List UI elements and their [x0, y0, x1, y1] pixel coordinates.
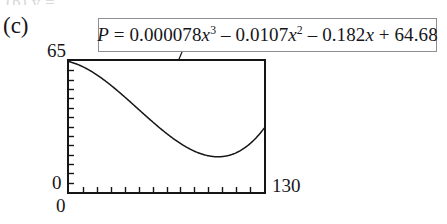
term4-sign: + [379, 24, 390, 45]
equation-callout-box: P = 0.000078x3 – 0.0107x2 – 0.182x + 64.… [98, 18, 437, 52]
term1-variable: x [202, 24, 211, 45]
term1-exponent: 3 [210, 24, 216, 37]
y-axis-max-label: 65 [47, 41, 66, 61]
term2-variable: x [288, 24, 297, 45]
equation-text: P = 0.000078x3 – 0.0107x2 – 0.182x + 64.… [97, 25, 438, 45]
term3-coef: 0.182 [322, 24, 365, 45]
plot-frame [67, 59, 266, 194]
equation-equals-sign: = [114, 24, 125, 45]
term4-coef: 64.68 [395, 24, 438, 45]
figure-panel: (b) y = (c) P = 0.000078x3 – 0.0107x2 – … [0, 0, 447, 224]
equation-lhs-variable: P [97, 24, 109, 45]
term2-sign: – [221, 24, 231, 45]
data-curve [69, 62, 264, 157]
term3-sign: – [308, 24, 318, 45]
term2-exponent: 2 [297, 24, 303, 37]
x-axis-max-label: 130 [272, 176, 301, 196]
term1-coef: 0.000078 [130, 24, 202, 45]
y-axis-min-label: 0 [52, 173, 62, 193]
cubic-curve-plot [69, 61, 264, 192]
part-label-c: (c) [3, 14, 29, 38]
term2-coef: 0.0107 [235, 24, 288, 45]
x-axis-min-label: 0 [56, 196, 66, 216]
cut-off-previous-line: (b) y = [6, 0, 266, 5]
term3-variable: x [365, 24, 374, 45]
